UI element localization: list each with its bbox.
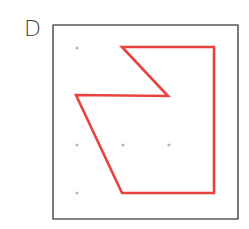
grid-dot bbox=[75, 191, 78, 194]
grid-dot bbox=[75, 143, 78, 146]
red-polygon-shape bbox=[76, 47, 214, 193]
grid-dot bbox=[75, 46, 78, 49]
diagram-canvas bbox=[0, 0, 249, 229]
grid-dot bbox=[167, 143, 170, 146]
dot-grid bbox=[75, 46, 170, 194]
square-frame bbox=[53, 25, 238, 219]
grid-dot bbox=[121, 143, 124, 146]
